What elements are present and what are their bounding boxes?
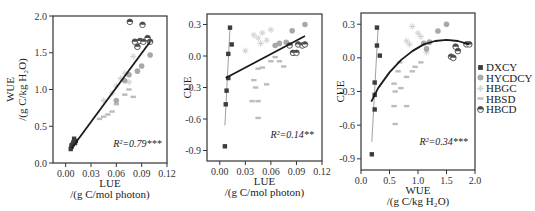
plot-area [69, 19, 153, 151]
data-point [391, 105, 396, 107]
data-point [478, 75, 484, 81]
data-point [126, 88, 131, 90]
panel-wue-cue: -0.9-0.6-0.30.00.30.00.51.01.52.0WUE/(g … [334, 13, 481, 208]
x-tick-label: 0.00 [211, 166, 229, 177]
legend: DXCYHYCDCYHBGCHBSDHBCD [477, 62, 532, 115]
data-point [404, 76, 409, 78]
data-point [135, 68, 141, 74]
y-tick-label: -0.9 [339, 153, 355, 164]
bar-marker-icon [477, 95, 484, 102]
data-point [302, 42, 308, 48]
data-point [264, 83, 269, 85]
data-point [444, 21, 450, 27]
data-point [395, 70, 400, 72]
x-tick-label: 0.03 [82, 168, 100, 179]
data-point [114, 98, 120, 104]
x-tick-label: 0.00 [57, 168, 75, 179]
legend-label: HBCD [486, 104, 517, 115]
data-point [281, 65, 286, 67]
data-point [260, 66, 265, 68]
series-hbsd [249, 56, 286, 119]
data-point [105, 113, 110, 115]
x-tick-label: 0.09 [288, 166, 306, 177]
x-tick-label: 0.09 [133, 168, 151, 179]
data-point [289, 28, 295, 34]
data-point [130, 53, 136, 59]
data-point [122, 93, 127, 95]
regression-line [226, 36, 305, 78]
y-tick-label: 1.5 [35, 47, 48, 58]
data-point [140, 22, 146, 28]
legend-label: HBGC [486, 83, 517, 94]
y-tick-label: 1.0 [35, 84, 48, 95]
data-point [259, 30, 265, 36]
data-point [230, 42, 234, 46]
data-point [253, 86, 258, 88]
data-point [294, 50, 300, 56]
data-point [255, 100, 260, 102]
data-point [224, 88, 228, 92]
y-tick-label: -0.6 [185, 114, 201, 125]
data-point [393, 123, 398, 125]
y-tick-label: 0.3 [189, 19, 202, 30]
data-point [398, 87, 403, 89]
series-dxcy [223, 25, 234, 148]
data-point [391, 82, 396, 84]
data-point [249, 100, 254, 102]
y-axis-label: CUE [334, 80, 346, 102]
legend-label: DXCY [486, 62, 517, 73]
series-hbsd [391, 61, 423, 125]
data-point [451, 55, 457, 61]
figure-canvas: 0.00.51.01.52.00.000.030.060.090.12LUE/(… [0, 0, 535, 211]
data-point [412, 66, 417, 68]
data-point [101, 115, 106, 117]
data-point [375, 43, 379, 47]
data-point [477, 85, 484, 92]
x-tick-label: 0.5 [383, 175, 396, 186]
star-marker-icon [477, 85, 484, 92]
x-tick-label: 2.0 [469, 175, 482, 186]
data-point [242, 48, 248, 54]
data-point [268, 60, 273, 62]
data-point [478, 98, 484, 100]
circle-marker-icon [477, 74, 484, 81]
x-tick-label: 1.5 [440, 175, 453, 186]
x-tick-label: 0.12 [313, 166, 331, 177]
data-point [302, 22, 308, 28]
data-point [418, 61, 423, 63]
series-dxcy [69, 137, 78, 152]
data-point [127, 19, 133, 25]
data-point [409, 23, 415, 29]
y-axis-label: CUE [181, 76, 193, 98]
data-point [455, 48, 461, 54]
x-axis-unit: /(g C/mol photon) [225, 186, 305, 199]
data-point [435, 28, 441, 34]
data-point [224, 102, 228, 106]
data-point [114, 103, 119, 105]
series-hbcd [127, 19, 153, 50]
data-point [272, 56, 277, 58]
data-point [378, 53, 382, 57]
y-tick-label: 0.0 [189, 51, 202, 62]
data-point [228, 25, 232, 29]
data-point [277, 41, 283, 47]
data-point [251, 32, 257, 38]
data-point [393, 90, 398, 92]
data-point [370, 152, 374, 156]
r-squared-annotation: R²=0.14** [270, 129, 314, 140]
data-point [251, 79, 256, 81]
legend-item-dxcy: DXCY [477, 62, 532, 73]
y-tick-label: -0.9 [185, 145, 201, 156]
data-point [478, 65, 483, 70]
data-point [478, 106, 484, 112]
data-point [135, 44, 141, 50]
series-hbgc [242, 27, 274, 54]
legend-item-hbgc: HBGC [477, 83, 532, 94]
data-point [372, 107, 376, 111]
y-tick-label: 0.0 [343, 52, 356, 63]
x-axis-unit: /(g C/mol photon) [70, 188, 150, 201]
x-axis-unit: /(g C/kg H₂O) [387, 195, 450, 208]
y-tick-label: 2.0 [35, 11, 48, 22]
data-point [139, 63, 145, 69]
half-circle-marker-icon [477, 106, 484, 113]
